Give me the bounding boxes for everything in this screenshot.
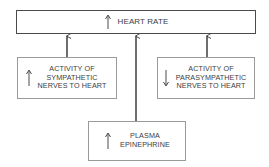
parasympathetic-activity-label: ACTIVITY OF PARASYMPATHETIC NERVES TO HE… bbox=[176, 65, 247, 91]
heart-rate-label: HEART RATE bbox=[118, 18, 169, 27]
increase-arrow-icon bbox=[25, 69, 33, 87]
increase-arrow-icon bbox=[104, 14, 112, 30]
sympathetic-activity-label: ACTIVITY OF SYMPATHETIC NERVES TO HEART bbox=[38, 65, 107, 91]
heart-rate-box: HEART RATE bbox=[16, 10, 256, 34]
increase-arrow-icon bbox=[104, 132, 112, 150]
sympathetic-activity-box: ACTIVITY OF SYMPATHETIC NERVES TO HEART bbox=[17, 57, 117, 99]
parasympathetic-activity-box: ACTIVITY OF PARASYMPATHETIC NERVES TO HE… bbox=[157, 57, 255, 99]
plasma-epinephrine-box: PLASMA EPINEPHRINE bbox=[88, 121, 186, 161]
decrease-arrow-icon bbox=[162, 69, 170, 87]
plasma-epinephrine-label: PLASMA EPINEPHRINE bbox=[120, 132, 170, 149]
